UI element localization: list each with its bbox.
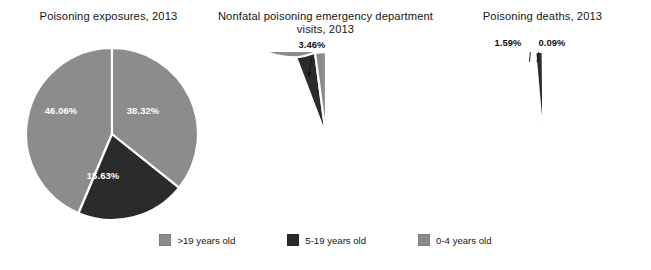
pie-value-exposures-age5to19: 15.63%: [70, 170, 136, 181]
chart-panel-ed-visits: Nonfatal poisoning emergency department …: [217, 0, 434, 225]
chart-panel-exposures: Poisoning exposures, 2013 46.06% 15.63% …: [0, 0, 217, 225]
legend-item-age5to19: 5-19 years old: [287, 234, 366, 246]
pie-value-deaths-over19: 98.32%: [502, 159, 568, 170]
legend-swatch-icon-over19: [159, 234, 171, 246]
pie-value-deaths-age0to4: 0.09%: [526, 37, 578, 48]
chart-title-exposures: Poisoning exposures, 2013: [0, 10, 217, 23]
poisoning-pie-chart-figure: Poisoning exposures, 2013 46.06% 15.63% …: [0, 0, 651, 270]
chart-panel-deaths: Poisoning deaths, 2013 1.59% 0.09%: [434, 0, 651, 225]
pie-value-ed-visits-age0to4: 3.46%: [279, 39, 345, 50]
legend-label-over19: >19 years old: [177, 235, 235, 246]
pie-value-ed-visits-age5to19: 7.81%: [255, 85, 307, 96]
pie-value-exposures-age0to4: 38.32%: [110, 105, 176, 116]
leader-lines-deaths: [434, 52, 651, 227]
legend-swatch-icon-age0to4: [418, 234, 430, 246]
pie-svg-exposures: [9, 48, 209, 220]
pie-value-ed-visits-over19: 88.73%: [285, 159, 351, 170]
chart-title-ed-visits: Nonfatal poisoning emergency department …: [217, 10, 434, 36]
legend-item-age0to4: 0-4 years old: [418, 234, 491, 246]
pie-wrap-deaths: 1.59% 0.09% 98.32%: [434, 52, 651, 227]
chart-legend: >19 years old 5-19 years old 0-4 years o…: [0, 232, 651, 248]
pie-wrap-exposures: 46.06% 15.63% 38.32%: [0, 48, 217, 223]
legend-item-over19: >19 years old: [159, 234, 235, 246]
leader-line-ed-visits-age0to4: [217, 52, 434, 227]
pie-wrap-ed-visits: 3.46% 7.81% 88.73%: [217, 52, 434, 227]
legend-label-age5to19: 5-19 years old: [305, 235, 366, 246]
pie-value-exposures-over19: 46.06%: [28, 105, 94, 116]
legend-label-age0to4: 0-4 years old: [436, 235, 491, 246]
legend-swatch-icon-age5to19: [287, 234, 299, 246]
chart-title-deaths: Poisoning deaths, 2013: [434, 10, 651, 23]
